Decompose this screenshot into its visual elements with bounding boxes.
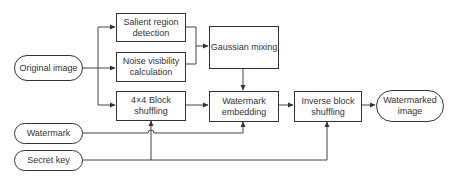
original-image-node: Original image bbox=[14, 55, 83, 81]
output-label-line2: image bbox=[398, 106, 423, 117]
embed-label-line1: Watermark bbox=[222, 96, 266, 107]
edge-watermark-embed bbox=[82, 122, 243, 133]
inverse-label-line2: shuffling bbox=[311, 107, 344, 118]
noise-label-line1: Noise visibility bbox=[123, 56, 180, 67]
salient-label-line2: detection bbox=[133, 28, 170, 39]
shuffle-label-line2: shuffling bbox=[134, 106, 167, 117]
embed-label-line2: embedding bbox=[222, 107, 267, 118]
edge-merge-bracket bbox=[185, 27, 196, 64]
salient-label-line1: Salient region bbox=[123, 17, 178, 28]
block-shuffling-node: 4×4 Block shuffling bbox=[116, 91, 186, 121]
watermark-embedding-node: Watermark embedding bbox=[209, 91, 279, 122]
noise-visibility-calculation-node: Noise visibility calculation bbox=[116, 52, 186, 82]
secret-key-node: Secret key bbox=[14, 150, 83, 171]
original-image-label: Original image bbox=[19, 63, 77, 74]
edge-secretkey-inverse bbox=[82, 122, 327, 160]
inverse-label-line1: Inverse block bbox=[301, 96, 354, 107]
output-label-line1: Watermarked bbox=[383, 95, 437, 106]
secret-key-label: Secret key bbox=[27, 155, 70, 166]
watermark-label: Watermark bbox=[27, 128, 71, 139]
shuffle-label-line1: 4×4 Block bbox=[131, 95, 171, 106]
salient-region-detection-node: Salient region detection bbox=[116, 13, 186, 42]
gaussian-mixing-node: Gaussian mixing bbox=[209, 26, 279, 69]
watermark-node: Watermark bbox=[14, 123, 83, 144]
watermarked-image-node: Watermarked image bbox=[376, 90, 444, 122]
gaussian-label: Gaussian mixing bbox=[211, 42, 278, 53]
inverse-block-shuffling-node: Inverse block shuffling bbox=[294, 91, 362, 122]
noise-label-line2: calculation bbox=[130, 67, 173, 78]
